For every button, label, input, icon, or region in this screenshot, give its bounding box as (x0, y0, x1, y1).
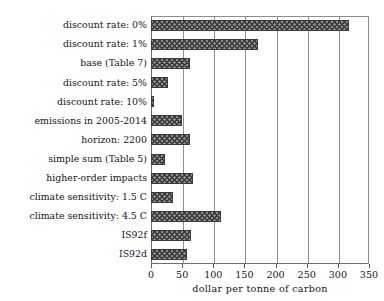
bar (151, 58, 190, 69)
y-axis-tick-label: simple sum (Table 5) (0, 154, 147, 163)
bar (151, 211, 221, 222)
x-axis-tick (338, 264, 339, 268)
bar-row (151, 226, 369, 245)
bar-row (151, 245, 369, 264)
bar (151, 77, 168, 88)
bar-row (151, 188, 369, 207)
x-axis-tick (213, 264, 214, 268)
bar (151, 154, 165, 165)
x-axis-tick (244, 264, 245, 268)
bar (151, 230, 191, 241)
bar (151, 173, 193, 184)
y-axis-tick-label: higher-order impacts (0, 173, 147, 182)
bar-chart: discount rate: 0%discount rate: 1%base (… (0, 0, 384, 301)
y-axis-tick-label: climate sensitivity: 4.5 C (0, 211, 147, 220)
y-axis-tick-label: IS92d (0, 249, 147, 258)
bar (151, 115, 182, 126)
bar (151, 192, 173, 203)
x-axis-tick (307, 264, 308, 268)
x-axis-tick (369, 264, 370, 268)
bar (151, 96, 154, 107)
bar-row (151, 92, 369, 111)
y-axis-tick-label: discount rate: 1% (0, 39, 147, 48)
y-axis-tick-label: discount rate: 5% (0, 78, 147, 87)
x-axis-tick-label: 350 (360, 269, 378, 280)
y-axis-tick-label: horizon: 2200 (0, 135, 147, 144)
x-axis-tick-label: 0 (148, 269, 154, 280)
bar-row (151, 35, 369, 54)
x-axis-tick-label: 50 (176, 269, 188, 280)
y-axis-tick-label: discount rate: 10% (0, 97, 147, 106)
y-axis-tick-label: base (Table 7) (0, 58, 147, 67)
bar-row (151, 169, 369, 188)
x-axis-tick-label: 200 (266, 269, 284, 280)
y-axis-tick-label: IS92f (0, 230, 147, 239)
bar (151, 20, 349, 31)
bar-row (151, 150, 369, 169)
x-axis-tick (151, 264, 152, 268)
x-axis-tick-label: 150 (235, 269, 253, 280)
bar-row (151, 130, 369, 149)
bar-row (151, 111, 369, 130)
bar-row (151, 207, 369, 226)
bar (151, 134, 190, 145)
y-axis-tick-label: climate sensitivity: 1.5 C (0, 192, 147, 201)
bar-row (151, 54, 369, 73)
x-axis-tick-label: 300 (329, 269, 347, 280)
y-axis-tick-label: discount rate: 0% (0, 20, 147, 29)
x-axis-tick-label: 100 (204, 269, 222, 280)
bar (151, 39, 258, 50)
bar-row (151, 73, 369, 92)
x-axis-tick (276, 264, 277, 268)
x-axis-tick-label: 250 (298, 269, 316, 280)
bar-row (151, 16, 369, 35)
x-axis-title: dollar per tonne of carbon (151, 283, 369, 294)
y-axis-tick-label: emissions in 2005-2014 (0, 116, 147, 125)
x-axis-tick (182, 264, 183, 268)
bar (151, 249, 187, 260)
